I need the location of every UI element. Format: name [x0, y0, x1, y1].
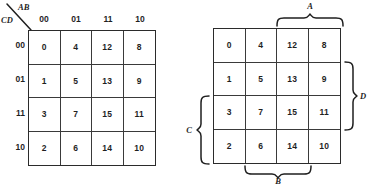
kmap-cell: 3 [29, 98, 61, 132]
row-header-0: 00 [2, 40, 25, 50]
axis-label-ab: AB [18, 2, 29, 12]
axis-label-cd: CD [1, 15, 13, 25]
brace-label-c: C [183, 125, 195, 135]
kmap-cell: 7 [61, 98, 93, 132]
right-kmap-grid: 0 4 12 8 1 5 13 9 3 7 15 11 2 6 14 10 [213, 28, 341, 164]
kmap-cell: 8 [309, 29, 341, 63]
kmap-cell: 9 [124, 65, 156, 99]
brace-a-icon [275, 13, 345, 27]
left-kmap-container: AB CD 00 01 11 10 00 01 11 10 0 4 12 8 1… [0, 0, 181, 188]
column-header-3: 10 [124, 14, 156, 24]
row-header-2: 11 [2, 108, 25, 118]
left-kmap-grid: 0 4 12 8 1 5 13 9 3 7 15 11 2 6 14 10 [28, 30, 156, 166]
kmap-cell: 4 [61, 31, 93, 65]
kmap-cell: 13 [92, 65, 124, 99]
column-header-1: 01 [60, 14, 92, 24]
kmap-cell: 1 [214, 63, 246, 97]
kmap-cell: 15 [92, 98, 124, 132]
kmap-cell: 14 [277, 130, 309, 164]
kmap-cell: 12 [277, 29, 309, 63]
kmap-cell: 4 [246, 29, 278, 63]
kmap-cell: 3 [214, 96, 246, 130]
kmap-cell: 14 [92, 132, 124, 166]
right-kmap-container: 0 4 12 8 1 5 13 9 3 7 15 11 2 6 14 10 A … [181, 0, 362, 188]
kmap-cell: 1 [29, 65, 61, 99]
kmap-cell: 5 [61, 65, 93, 99]
kmap-cell: 8 [124, 31, 156, 65]
column-header-0: 00 [28, 14, 60, 24]
brace-label-b: B [263, 176, 293, 186]
kmap-cell: 6 [61, 132, 93, 166]
kmap-cell: 13 [277, 63, 309, 97]
kmap-cell: 2 [29, 132, 61, 166]
kmap-cell: 0 [214, 29, 246, 63]
kmap-cell: 15 [277, 96, 309, 130]
row-header-1: 01 [2, 74, 25, 84]
kmap-cell: 0 [29, 31, 61, 65]
kmap-cell: 6 [246, 130, 278, 164]
kmap-cell: 10 [124, 132, 156, 166]
kmap-cell: 9 [309, 63, 341, 97]
brace-label-a: A [295, 1, 325, 11]
kmap-cell: 11 [309, 96, 341, 130]
kmap-cell: 10 [309, 130, 341, 164]
brace-c-icon [197, 94, 211, 166]
kmap-cell: 5 [246, 63, 278, 97]
kmap-cell: 11 [124, 98, 156, 132]
kmap-cell: 2 [214, 130, 246, 164]
row-header-3: 10 [2, 142, 25, 152]
kmap-cell: 7 [246, 96, 278, 130]
brace-label-d: D [357, 91, 369, 101]
brace-d-icon [343, 60, 357, 132]
column-header-2: 11 [92, 14, 124, 24]
kmap-cell: 12 [92, 31, 124, 65]
